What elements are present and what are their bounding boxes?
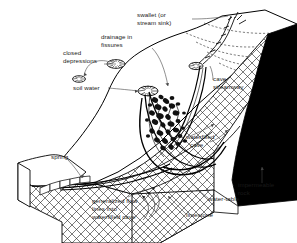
label-swallet: swallet (or stream sink) xyxy=(137,11,171,26)
karst-block-diagram: swallet (or stream sink) drainage in fis… xyxy=(0,0,297,243)
label-cave-streamway-line2: streamway xyxy=(213,83,244,90)
label-drainage-line1: drainage in xyxy=(101,33,133,40)
label-drainage-line2: fissures xyxy=(101,41,123,48)
label-closed-depressions-line1: closed xyxy=(63,49,82,56)
karst-hydrology-figure: swallet (or stream sink) drainage in fis… xyxy=(0,0,297,243)
label-drainage-fissures: drainage in fissures xyxy=(101,33,133,48)
label-spring: spring xyxy=(51,153,69,160)
label-swallet-line1: swallet (or xyxy=(137,11,166,18)
label-closed-depressions-line2: depressions xyxy=(63,57,97,64)
label-closed-depressions: closed depressions xyxy=(63,49,97,64)
label-soil-water: soil water xyxy=(73,84,100,91)
label-flow-lines-line3: waterfilled cave xyxy=(91,213,136,220)
label-water-table-line1: water-table xyxy=(207,195,240,202)
closed-depression-2 xyxy=(73,76,86,83)
label-limestone: limestone xyxy=(186,211,213,218)
label-swallet-line2: stream sink) xyxy=(137,19,171,26)
soil-water-doline xyxy=(138,86,158,97)
label-flow-lines-line2: lines into xyxy=(92,205,117,212)
label-flow-lines-line1: generalized flow xyxy=(92,197,138,204)
label-waterfilled-cave-line1: waterfilled xyxy=(185,133,215,140)
label-spring-line1: spring xyxy=(51,153,69,160)
label-cave-streamway-line1: cave xyxy=(213,75,227,82)
block-right-face xyxy=(214,190,238,214)
label-impermeable-rock-line1: impermeable xyxy=(238,181,275,188)
block-left-end-face xyxy=(18,163,30,207)
label-limestone-line1: limestone xyxy=(186,211,213,218)
swallet-doline xyxy=(189,62,203,69)
label-impermeable-rock-line2: rock xyxy=(238,189,251,196)
label-waterfilled-cave-line2: cave xyxy=(190,141,204,148)
label-water-table: water-table xyxy=(207,195,240,202)
label-soil-water-line1: soil water xyxy=(73,84,100,91)
